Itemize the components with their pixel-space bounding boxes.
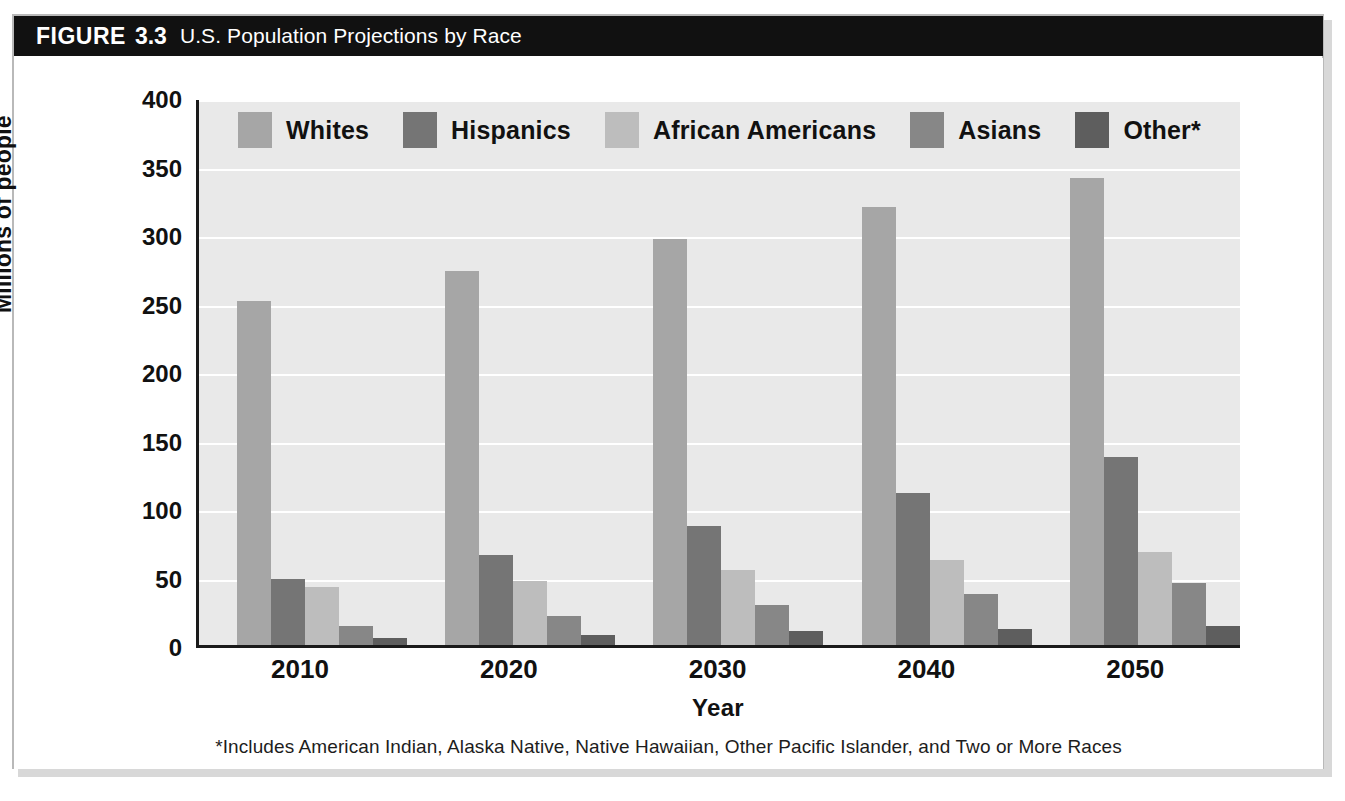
x-axis-tick-label: 2010 xyxy=(232,654,368,685)
y-axis-tick-label: 250 xyxy=(112,294,182,318)
x-axis-tick-cell: 2030 xyxy=(614,654,823,685)
y-axis-tick-label: 150 xyxy=(112,431,182,455)
bar-group-2040 xyxy=(824,100,1032,645)
bar[interactable] xyxy=(581,635,615,645)
x-axis-tick-label: 2050 xyxy=(1067,654,1203,685)
bar-groups xyxy=(199,100,1240,645)
x-axis-tick-cell: 2050 xyxy=(1031,654,1240,685)
plot-area: WhitesHispanicsAfrican AmericansAsiansOt… xyxy=(196,100,1240,648)
legend-label: Hispanics xyxy=(451,116,571,145)
y-axis-tick-label: 0 xyxy=(112,636,182,660)
y-axis-tick-label: 50 xyxy=(112,568,182,592)
legend-label: Asians xyxy=(958,116,1041,145)
bar[interactable] xyxy=(1138,552,1172,645)
y-axis-title: Millions of people xyxy=(0,115,17,313)
bar-group-2020 xyxy=(407,100,615,645)
bar[interactable] xyxy=(1104,457,1138,645)
figure-label: FIGURE xyxy=(36,23,126,50)
bar[interactable] xyxy=(687,526,721,645)
x-axis-tick-cell: 2010 xyxy=(196,654,405,685)
figure-title-banner: FIGURE 3.3 U.S. Population Projections b… xyxy=(14,16,1323,56)
y-axis-tick-label: 300 xyxy=(112,225,182,249)
bar[interactable] xyxy=(373,638,407,645)
bar[interactable] xyxy=(998,629,1032,645)
bar[interactable] xyxy=(1206,626,1240,645)
bar[interactable] xyxy=(964,594,998,645)
bar[interactable] xyxy=(862,207,896,645)
chart-legend: WhitesHispanicsAfrican AmericansAsiansOt… xyxy=(199,112,1240,148)
figure-root: FIGURE 3.3 U.S. Population Projections b… xyxy=(0,0,1345,801)
figure-caption: U.S. Population Projections by Race xyxy=(180,24,522,48)
legend-swatch-icon xyxy=(238,112,272,148)
y-axis-tick-label: 400 xyxy=(112,88,182,112)
legend-swatch-icon xyxy=(1075,112,1109,148)
bar[interactable] xyxy=(896,493,930,645)
x-axis-tick-labels: 20102020203020402050 xyxy=(196,654,1240,685)
bar[interactable] xyxy=(930,560,964,645)
legend-item-african-americans[interactable]: African Americans xyxy=(605,112,876,148)
x-axis-title: Year xyxy=(196,694,1240,722)
legend-swatch-icon xyxy=(403,112,437,148)
bar[interactable] xyxy=(1070,178,1104,645)
bar[interactable] xyxy=(653,239,687,645)
x-axis-tick-label: 2020 xyxy=(441,654,577,685)
legend-item-asians[interactable]: Asians xyxy=(910,112,1041,148)
bar[interactable] xyxy=(237,301,271,645)
y-axis-tick-label: 100 xyxy=(112,499,182,523)
legend-swatch-icon xyxy=(910,112,944,148)
legend-label: Other* xyxy=(1123,116,1201,145)
bar[interactable] xyxy=(339,626,373,645)
legend-swatch-icon xyxy=(605,112,639,148)
x-axis-tick-cell: 2020 xyxy=(405,654,614,685)
chart-area: Millions of people 400350300250200150100… xyxy=(14,58,1323,769)
bar-group-2010 xyxy=(199,100,407,645)
bar[interactable] xyxy=(271,579,305,645)
bar-group-2030 xyxy=(615,100,823,645)
legend-item-whites[interactable]: Whites xyxy=(238,112,369,148)
legend-label: Whites xyxy=(286,116,369,145)
bar[interactable] xyxy=(721,570,755,645)
legend-label: African Americans xyxy=(653,116,876,145)
bar-group-2050 xyxy=(1032,100,1240,645)
bar[interactable] xyxy=(513,581,547,645)
bar[interactable] xyxy=(445,271,479,645)
bar[interactable] xyxy=(789,631,823,645)
y-axis-tick-label: 200 xyxy=(112,362,182,386)
x-axis-tick-cell: 2040 xyxy=(822,654,1031,685)
figure-number: 3.3 xyxy=(135,23,167,50)
bar[interactable] xyxy=(479,555,513,645)
bar[interactable] xyxy=(755,605,789,645)
bar[interactable] xyxy=(305,587,339,645)
figure-footnote: *Includes American Indian, Alaska Native… xyxy=(14,736,1323,758)
bar[interactable] xyxy=(547,616,581,645)
x-axis-tick-label: 2030 xyxy=(650,654,786,685)
legend-item-other[interactable]: Other* xyxy=(1075,112,1201,148)
y-axis-tick-label: 350 xyxy=(112,157,182,181)
bar[interactable] xyxy=(1172,583,1206,645)
x-axis-tick-label: 2040 xyxy=(858,654,994,685)
legend-item-hispanics[interactable]: Hispanics xyxy=(403,112,571,148)
